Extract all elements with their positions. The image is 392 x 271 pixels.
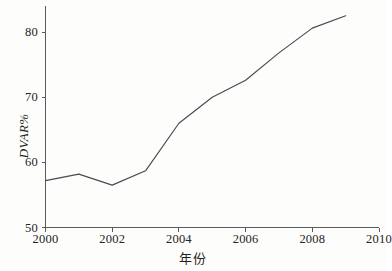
x-tick-label: 2000 <box>33 232 59 247</box>
x-tick-label: 2006 <box>233 232 259 247</box>
data-series-line <box>46 16 346 185</box>
y-axis-ticks <box>42 32 46 227</box>
x-axis-title: 年份 <box>0 248 386 267</box>
axes-group <box>42 6 380 232</box>
y-tick-label: 70 <box>8 90 38 105</box>
y-tick-label: 80 <box>8 25 38 40</box>
y-axis-title: DVAR% <box>16 113 32 158</box>
x-axis-ticks <box>46 228 380 232</box>
x-tick-label: 2002 <box>99 232 125 247</box>
x-tick-label: 2010 <box>366 232 392 247</box>
x-tick-label: 2008 <box>299 232 325 247</box>
x-tick-label: 2004 <box>166 232 192 247</box>
